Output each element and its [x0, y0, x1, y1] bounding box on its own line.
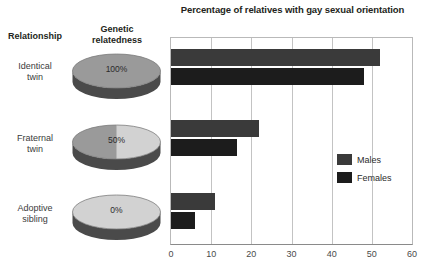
x-axis-tick-label: 0: [159, 249, 183, 259]
legend-label: Males: [357, 155, 381, 165]
legend-swatch-icon: [337, 154, 352, 165]
x-axis-tick-label: 60: [400, 249, 424, 259]
bar-males-fraternal-twin: [171, 120, 259, 137]
pie-disc-icon: [70, 190, 163, 242]
bar-males-adoptive-sibling: [171, 193, 215, 210]
x-axis-tick-label: 10: [199, 249, 223, 259]
gridline: [372, 38, 373, 244]
genetic-relatedness-disc-adoptive-sibling: 0%: [70, 190, 163, 242]
x-axis-tick-label: 30: [280, 249, 304, 259]
row-label-line-1: Identical: [18, 61, 52, 71]
row-label-line-2: sibling: [22, 214, 48, 224]
column-header-relationship: Relationship: [2, 31, 68, 42]
row-label-line-1: Fraternal: [17, 133, 53, 143]
bar-females-fraternal-twin: [171, 139, 237, 156]
x-axis-tick-label: 20: [239, 249, 263, 259]
x-axis-tick-label: 40: [320, 249, 344, 259]
genetic-header-line-1: Genetic: [100, 24, 133, 34]
bar-females-adoptive-sibling: [171, 212, 195, 229]
row-label-identical-twin: Identical twin: [2, 61, 68, 83]
column-header-genetic-relatedness: Genetic relatedness: [72, 24, 162, 45]
figure-root: Percentage of relatives with gay sexual …: [0, 0, 437, 276]
row-label-line-2: twin: [27, 72, 43, 82]
pie-disc-icon: [70, 49, 163, 101]
bar-males-identical-twin: [171, 49, 380, 66]
legend-item-males: Males: [337, 152, 413, 167]
row-label-line-2: twin: [27, 144, 43, 154]
bar-females-identical-twin: [171, 68, 364, 85]
legend-label: Females: [357, 173, 392, 183]
genetic-relatedness-disc-fraternal-twin: 50%: [70, 120, 163, 172]
legend-swatch-icon: [337, 172, 352, 183]
pie-disc-icon: [70, 120, 163, 172]
row-label-fraternal-twin: Fraternal twin: [2, 133, 68, 155]
chart-title: Percentage of relatives with gay sexual …: [170, 4, 415, 15]
row-label-line-1: Adoptive: [17, 203, 52, 213]
row-label-adoptive-sibling: Adoptive sibling: [2, 203, 68, 225]
bar-chart-plot-area: [170, 37, 413, 245]
x-axis-tick-label: 50: [360, 249, 384, 259]
legend: MalesFemales: [337, 152, 413, 188]
genetic-relatedness-disc-identical-twin: 100%: [70, 49, 163, 101]
legend-item-females: Females: [337, 170, 413, 185]
genetic-header-line-2: relatedness: [92, 35, 142, 45]
